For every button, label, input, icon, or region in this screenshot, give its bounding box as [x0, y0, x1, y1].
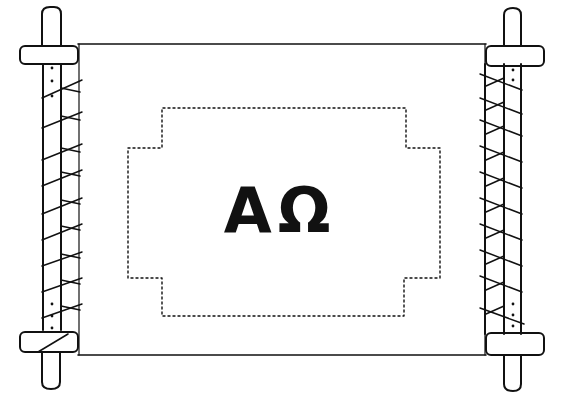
left-roller [20, 7, 82, 389]
alpha-letter: A [224, 174, 278, 247]
alpha-omega-inscription: A Ω [200, 170, 360, 250]
omega-letter: Ω [278, 174, 337, 247]
right-roller [480, 8, 544, 391]
